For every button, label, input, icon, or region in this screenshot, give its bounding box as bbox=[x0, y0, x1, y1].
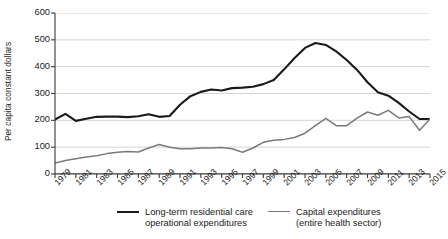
x-axis-tick-label: 1993 bbox=[199, 167, 219, 187]
x-axis-tick-label: 1979 bbox=[53, 167, 73, 187]
legend-item-long-term-residential-care: Long-term residential care operational e… bbox=[117, 207, 253, 230]
legend-line-swatch-icon bbox=[268, 207, 290, 217]
x-axis-tick-label: 1999 bbox=[261, 167, 281, 187]
x-axis-tick-label: 2013 bbox=[407, 167, 427, 187]
x-axis-tick-label: 2007 bbox=[345, 167, 365, 187]
chart-legend: Long-term residential care operational e… bbox=[0, 206, 435, 239]
x-axis-tick-label: 1981 bbox=[74, 167, 94, 187]
legend-item-label: Long-term residential care operational e… bbox=[145, 207, 253, 230]
x-axis-tick-label: 2003 bbox=[303, 167, 323, 187]
x-axis-tick-label: 1983 bbox=[95, 167, 115, 187]
x-axis-tick-label: 2011 bbox=[386, 168, 405, 187]
x-axis-tick-label: 1987 bbox=[136, 167, 156, 187]
legend-item-label: Capital expenditures (entire health sect… bbox=[296, 207, 381, 230]
legend-line-swatch-icon bbox=[117, 207, 139, 217]
x-axis-tick-label: 1997 bbox=[241, 167, 261, 187]
legend-item-capital-expenditures: Capital expenditures (entire health sect… bbox=[268, 207, 381, 230]
x-axis-tick-label: 1995 bbox=[220, 167, 240, 187]
x-axis-tick-label: 2015 bbox=[428, 167, 448, 187]
x-axis-tick-label: 2005 bbox=[324, 167, 344, 187]
x-axis-tick-label: 2001 bbox=[282, 167, 302, 187]
x-axis-tick-label: 2009 bbox=[366, 167, 386, 187]
x-axis-tick-label: 1991 bbox=[178, 167, 198, 187]
x-axis-tick-label: 1985 bbox=[116, 167, 136, 187]
x-axis-tick-label: 1989 bbox=[157, 167, 177, 187]
